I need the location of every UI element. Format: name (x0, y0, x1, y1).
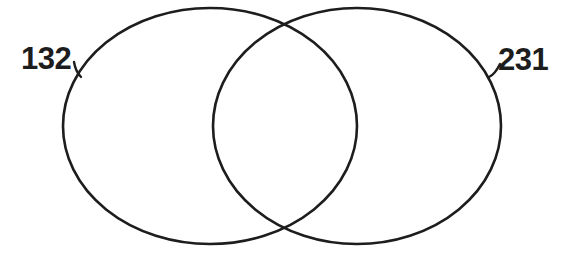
venn-diagram-figure: 132 231 (0, 0, 580, 262)
right-set-count-label: 231 (498, 44, 548, 75)
left-set-ellipse (63, 8, 357, 244)
venn-diagram (0, 0, 580, 262)
left-set-count-label: 132 (21, 43, 71, 74)
